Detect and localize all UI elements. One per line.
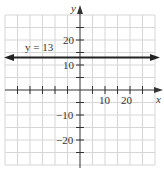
y-axis-arrow-icon: [77, 5, 83, 14]
x-axis-label: x: [155, 93, 161, 105]
x-axis: [5, 86, 163, 94]
y-axis-label: y: [70, 2, 76, 14]
y-tick-label-neg20: −20: [56, 134, 74, 146]
coordinate-plane: y x y = 13 20 10 −10 −20 10 20: [0, 0, 164, 173]
x-tick-label-20: 20: [121, 94, 133, 106]
y-tick-label-10: 10: [63, 59, 75, 71]
y-tick-label-20: 20: [63, 34, 75, 46]
y-axis: [76, 5, 84, 168]
y-tick-label-neg10: −10: [56, 109, 74, 121]
horizontal-line-y13: [4, 54, 160, 61]
x-tick-label-10: 10: [99, 94, 111, 106]
line-equation-label: y = 13: [25, 41, 54, 53]
